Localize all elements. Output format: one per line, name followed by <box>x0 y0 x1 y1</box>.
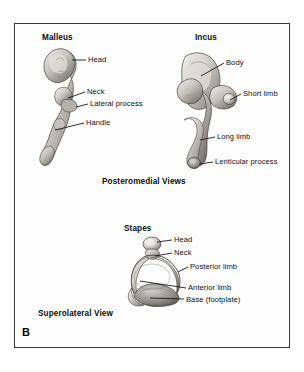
label-malleus-neck: Neck <box>87 87 105 96</box>
label-stapes-head: Head <box>174 235 192 244</box>
label-incus-lenticular-process: Lenticular process <box>215 157 278 166</box>
label-stapes-posterior-limb: Posterior limb <box>190 262 237 271</box>
panel-letter-b: B <box>22 326 30 338</box>
label-stapes-base-footplate: Base (footplate) <box>186 295 240 304</box>
label-stapes-neck: Neck <box>174 248 192 257</box>
panel-title-incus: Incus <box>195 33 217 42</box>
label-incus-body: Body <box>226 58 244 67</box>
panel-title-stapes: Stapes <box>124 224 151 233</box>
panel-title-malleus: Malleus <box>42 33 73 42</box>
label-incus-short-limb: Short limb <box>243 89 278 98</box>
anatomical-figure-panel-b: Malleus Incus Stapes Head Neck Lateral p… <box>0 0 304 372</box>
label-malleus-handle: Handle <box>86 118 110 127</box>
caption-superolateral-view: Superolateral View <box>38 309 113 318</box>
label-malleus-lateral-process: Lateral process <box>90 99 143 108</box>
label-incus-long-limb: Long limb <box>217 132 250 141</box>
label-malleus-head: Head <box>88 55 106 64</box>
caption-posteromedial-views: Posteromedial Views <box>102 177 186 186</box>
label-stapes-anterior-limb: Anterior limb <box>188 283 231 292</box>
